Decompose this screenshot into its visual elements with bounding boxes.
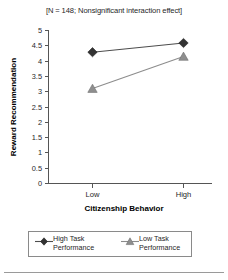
series-line-low-task-performance — [93, 57, 184, 89]
x-tick-label-high: High — [176, 190, 192, 199]
data-point-low-task-low-cb — [88, 84, 97, 92]
x-axis-title: Citizenship Behavior — [84, 204, 163, 213]
legend-label-high-task-line2: Performance — [53, 244, 94, 253]
y-tick-label-0: 0 — [38, 179, 42, 188]
y-tick-label-2-5: 2.5 — [32, 103, 42, 112]
legend-entry-high-task-performance: High Task Performance — [35, 235, 121, 252]
y-tick-label-4-5: 4.5 — [32, 41, 42, 50]
y-tick-label-0-5: 0.5 — [32, 164, 42, 173]
y-tick-label-1-5: 1.5 — [32, 133, 42, 142]
series-line-high-task-performance — [93, 43, 184, 52]
legend-marker-triangle-icon — [121, 236, 139, 247]
legend-label-low-task-performance: Low Task Performance — [139, 235, 180, 252]
data-point-low-task-high-cb — [179, 52, 188, 60]
legend-entry-low-task-performance: Low Task Performance — [121, 235, 180, 252]
data-point-high-task-high-cb — [179, 38, 188, 47]
y-axis-title: Reward Recommendation — [9, 58, 18, 156]
y-tick-label-5: 5 — [38, 26, 42, 35]
data-point-high-task-low-cb — [88, 48, 97, 57]
y-tick-label-4: 4 — [38, 57, 42, 66]
chart-legend: High Task Performance Low Task Performan… — [28, 231, 192, 257]
legend-label-high-task-performance: High Task Performance — [53, 235, 94, 252]
y-tick-label-1: 1 — [38, 148, 42, 157]
legend-marker-diamond-icon — [35, 236, 53, 247]
legend-label-low-task-line2: Performance — [139, 244, 180, 253]
x-axis-ticks — [93, 184, 184, 188]
y-tick-label-2: 2 — [38, 118, 42, 127]
plot-area: 5 4.5 4 3.5 3 2.5 2 1.5 1 0.5 0 Reward R… — [0, 0, 228, 225]
x-tick-label-low: Low — [86, 190, 100, 199]
chart-figure: [N = 148; Nonsignificant interaction eff… — [0, 0, 228, 280]
bottom-divider — [4, 272, 224, 273]
y-axis-ticks — [45, 31, 49, 184]
y-tick-label-3-5: 3.5 — [32, 72, 42, 81]
y-tick-label-3: 3 — [38, 87, 42, 96]
